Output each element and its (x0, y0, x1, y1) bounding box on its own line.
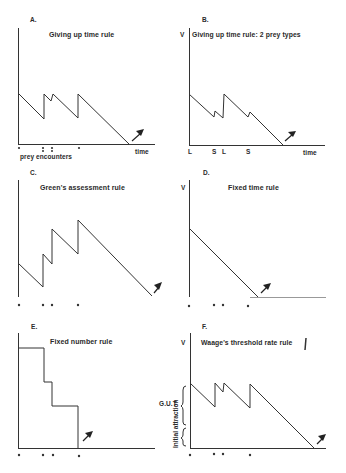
panel-d-leave-arrow-icon (261, 283, 271, 293)
gut-brace-icon (181, 386, 186, 425)
panel-b-prey-label: S (246, 148, 250, 155)
panel-a-leave-arrow-icon (132, 129, 144, 141)
panel-c-letter: C. (30, 169, 37, 176)
panel-e-letter: E. (31, 323, 37, 330)
panel-f-letter: F. (202, 323, 207, 330)
panel-a-x-label: time (135, 148, 149, 155)
panel-a-line (18, 93, 129, 144)
panel-a-title: Giving up time rule (49, 31, 114, 38)
panel-b-y-label: V (180, 31, 184, 38)
panel-f-y-label: V (181, 339, 185, 346)
panel-d-plot (190, 180, 327, 298)
panel-b-prey-label: L (222, 148, 226, 155)
panel-b-line (189, 94, 283, 145)
panel-f-line (190, 383, 314, 448)
panel-b-leave-arrow-icon (285, 131, 296, 141)
panel-c-line (18, 220, 152, 296)
panel-a-encounters-label: prey encounters (20, 153, 72, 160)
panel-f-title: Waage's threshold rate rule (201, 339, 292, 346)
panel-b-x-label: time (303, 149, 317, 156)
panel-e-plot (18, 333, 155, 449)
panel-b-prey-label: S (212, 148, 216, 155)
panel-c-title: Green's assessment rule (40, 184, 125, 191)
panel-a-letter: A. (30, 16, 37, 23)
panel-b-letter: B. (202, 16, 209, 23)
panel-b-plot (189, 28, 325, 146)
initial-attraction-label: Initial attraction (172, 400, 179, 448)
panel-c-plot (18, 180, 152, 297)
panel-a-plot (18, 28, 155, 145)
encounter-dots (18, 147, 251, 457)
attraction-brace-icon (181, 428, 186, 446)
panel-b-title: Giving up time rule: 2 prey types (192, 31, 301, 38)
panel-d-letter: D. (203, 169, 210, 176)
panel-b-prey-label: L (188, 148, 192, 155)
panel-d-line (190, 229, 258, 297)
tick-mark (305, 338, 306, 350)
panel-f-plot (181, 333, 326, 449)
panel-c-leave-arrow-icon (154, 282, 162, 293)
panel-e-leave-arrow-icon (83, 431, 93, 441)
panel-f-leave-arrow-icon (317, 434, 326, 444)
panel-d-title: Fixed time rule (228, 184, 279, 191)
panel-e-title: Fixed number rule (50, 338, 112, 345)
panel-d-y-label: V (181, 184, 185, 191)
panel-e-line (18, 348, 78, 448)
